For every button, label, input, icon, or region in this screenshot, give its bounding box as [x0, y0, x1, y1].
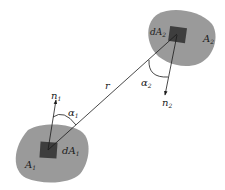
- view-factor-diagram: n1 α1 r α2 n2 dA1 A1 dA2 A2: [0, 0, 225, 190]
- label-alpha1: α1: [68, 107, 79, 119]
- label-r: r: [105, 80, 111, 91]
- label-n2: n2: [162, 97, 172, 109]
- element-da2: [168, 26, 187, 43]
- angle-arc-alpha2: [149, 60, 168, 77]
- label-alpha2: α2: [141, 77, 152, 89]
- label-n1: n1: [51, 90, 61, 102]
- distance-line-r: [48, 34, 177, 150]
